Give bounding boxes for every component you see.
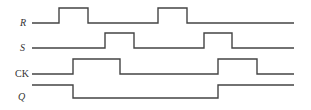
waveform-q — [32, 85, 294, 98]
signal-s: S — [20, 33, 294, 53]
signal-label-ck: CK — [15, 68, 30, 79]
signal-label-q: Q — [18, 91, 26, 102]
signal-label-r: R — [19, 17, 26, 28]
timing-diagram: R S CK Q — [0, 0, 311, 110]
signal-label-s: S — [20, 42, 25, 53]
signal-ck: CK — [15, 59, 294, 79]
waveform-s — [32, 33, 294, 48]
waveform-r — [32, 8, 294, 23]
waveform-ck — [32, 59, 294, 74]
signal-q: Q — [18, 85, 294, 102]
signal-r: R — [19, 8, 294, 28]
